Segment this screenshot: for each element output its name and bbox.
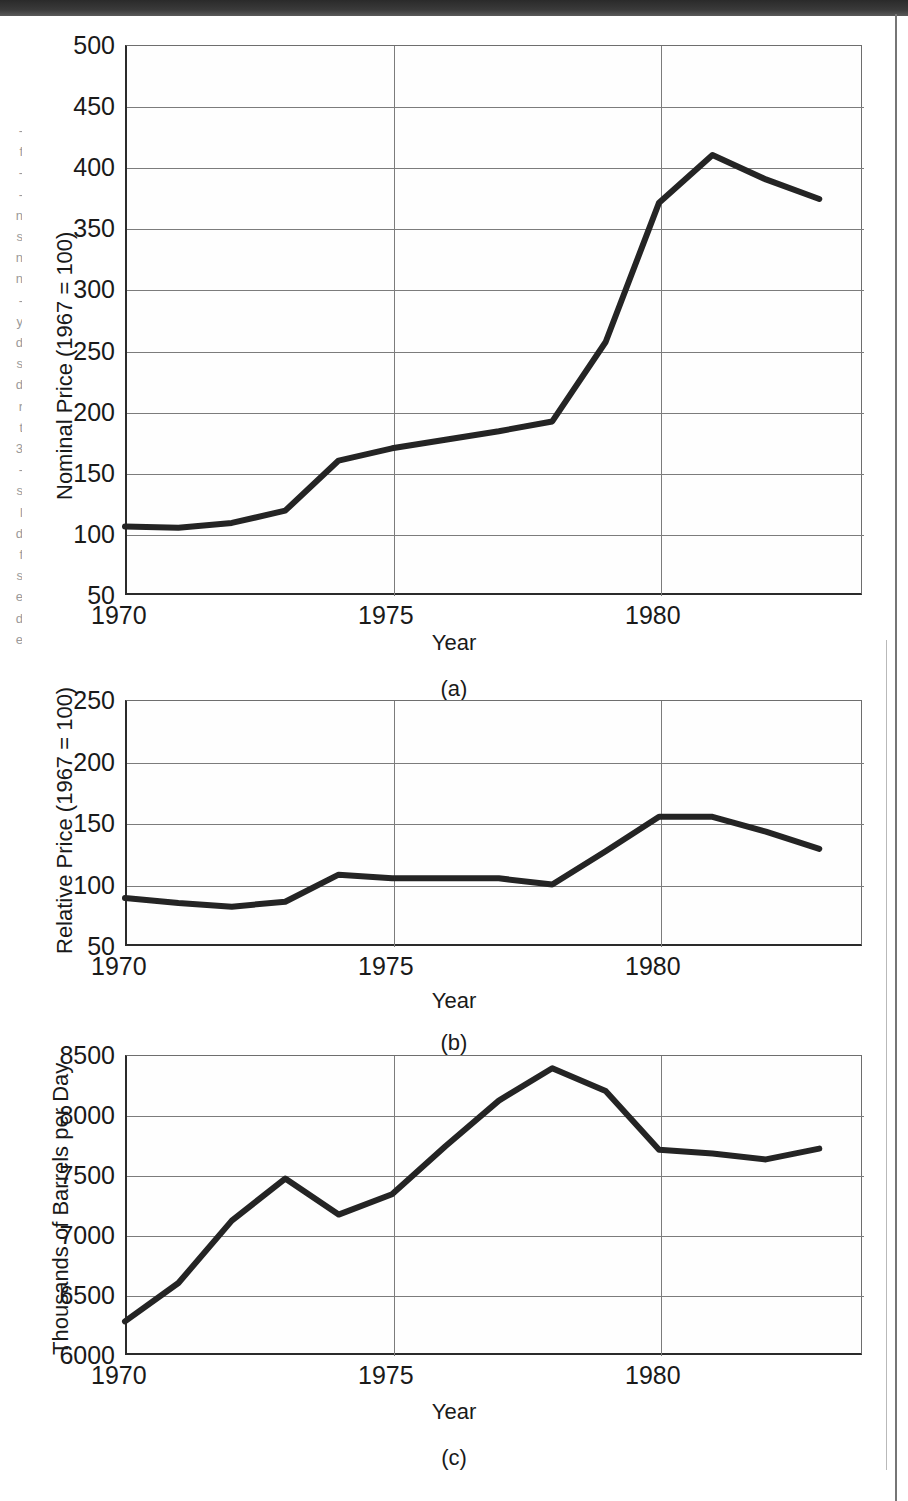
y-tick-label: 450 [0, 94, 115, 119]
panel-c-letter: (c) [0, 1445, 908, 1471]
panel-c-y-axis-label: Thousands of Barrels per Day [48, 1063, 74, 1355]
panel-b-series-line [125, 700, 862, 946]
x-tick-label: 1980 [625, 954, 681, 979]
panel-b-x-axis-label: Year [0, 988, 908, 1014]
chart-panel-a: 50100150200250300350400450500 1970197519… [0, 0, 908, 660]
panel-c-x-axis-label: Year [0, 1399, 908, 1425]
chart-panel-b: 50100150200250 197019751980 Relative Pri… [0, 700, 908, 1030]
y-tick-label: 400 [0, 155, 115, 180]
x-tick-label: 1975 [358, 954, 414, 979]
y-tick-label: 500 [0, 33, 115, 58]
panel-c-plot-wrap [125, 1055, 862, 1355]
y-tick-label: 100 [0, 522, 115, 547]
panel-a-plot-wrap [125, 45, 862, 595]
x-tick-label: 1980 [625, 603, 681, 628]
x-tick-label: 1970 [91, 1363, 147, 1388]
x-tick-label: 1970 [91, 954, 147, 979]
chart-panel-c: 600065007000750080008500 197019751980 Th… [0, 1055, 908, 1495]
panel-b-y-axis-label: Relative Price (1967 = 100) [52, 687, 78, 954]
panel-a-letter: (a) [0, 676, 908, 702]
x-tick-label: 1970 [91, 603, 147, 628]
x-tick-label: 1975 [358, 603, 414, 628]
panel-b-letter: (b) [0, 1030, 908, 1056]
panel-b-plot-wrap [125, 700, 862, 946]
panel-c-series-line [125, 1055, 862, 1355]
x-tick-label: 1975 [358, 1363, 414, 1388]
panel-a-y-axis-label: Nominal Price (1967 = 100) [52, 232, 78, 500]
panel-a-x-axis-label: Year [0, 630, 908, 656]
x-tick-label: 1980 [625, 1363, 681, 1388]
panel-a-series-line [125, 45, 862, 595]
